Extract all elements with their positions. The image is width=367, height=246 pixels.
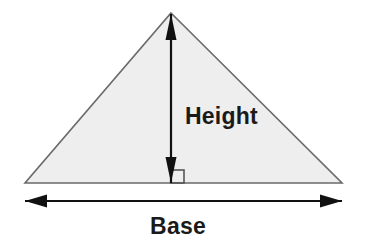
triangle-diagram: Height Base <box>0 0 367 246</box>
base-label: Base <box>150 213 206 239</box>
height-label: Height <box>185 103 258 129</box>
diagram-canvas: Height Base <box>0 0 367 246</box>
